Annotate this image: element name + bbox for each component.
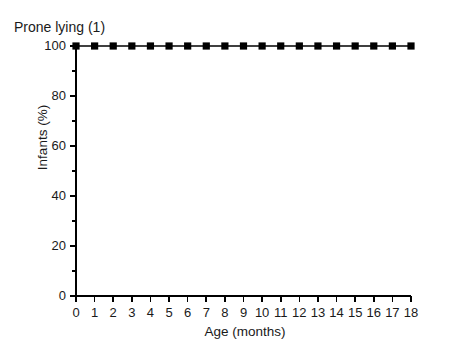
data-point-marker <box>221 42 228 49</box>
data-point-marker <box>203 42 210 49</box>
chart-figure: Prone lying (1) Infants (%) Age (months)… <box>0 0 466 356</box>
data-series-prone-lying <box>72 42 414 49</box>
data-point-marker <box>72 42 79 49</box>
y-tick-label: 0 <box>59 288 66 303</box>
data-point-marker <box>314 42 321 49</box>
x-tick-label: 18 <box>396 305 426 320</box>
data-point-marker <box>165 42 172 49</box>
y-tick-label: 40 <box>52 188 66 203</box>
y-tick-label: 80 <box>52 88 66 103</box>
data-point-marker <box>240 42 247 49</box>
y-tick-label: 60 <box>52 138 66 153</box>
plot-area <box>0 0 466 356</box>
data-point-marker <box>296 42 303 49</box>
y-tick-label: 100 <box>44 38 66 53</box>
axes-group <box>76 46 411 296</box>
data-point-marker <box>147 42 154 49</box>
y-tick-label: 20 <box>52 238 66 253</box>
data-point-marker <box>277 42 284 49</box>
data-point-marker <box>407 42 414 49</box>
data-point-marker <box>128 42 135 49</box>
data-point-marker <box>110 42 117 49</box>
data-point-marker <box>259 42 266 49</box>
ticks-group <box>70 46 411 302</box>
data-point-marker <box>389 42 396 49</box>
data-point-marker <box>333 42 340 49</box>
data-point-marker <box>370 42 377 49</box>
data-point-marker <box>184 42 191 49</box>
data-point-marker <box>352 42 359 49</box>
data-point-marker <box>91 42 98 49</box>
